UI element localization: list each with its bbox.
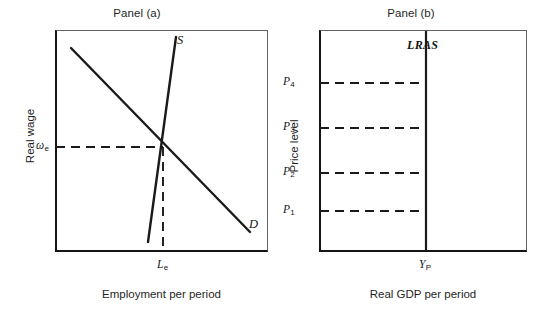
equilibrium-wage-subscript: e: [44, 144, 48, 153]
price-level-tick-p3: P3: [283, 120, 294, 132]
equilibrium-wage-tick-label: ωe: [36, 139, 49, 151]
potential-output-subscript: P: [426, 263, 431, 272]
price-level-symbol-p4: P: [283, 75, 290, 87]
panel-b-x-axis-label: Real GDP per period: [319, 288, 527, 300]
price-level-subscript-p1: 1: [290, 208, 294, 217]
price-level-symbol-p1: P: [283, 203, 290, 215]
equilibrium-employment-tick-label: Le: [157, 258, 168, 270]
price-level-subscript-p4: 4: [290, 80, 294, 89]
panel-b-title: Panel (b): [274, 7, 548, 19]
price-level-symbol-p3: P: [283, 120, 290, 132]
price-level-tick-p2: P2: [283, 165, 294, 177]
panel-a-y-axis-label: Real wage: [24, 106, 36, 166]
labor-supply-curve-label: S: [177, 33, 183, 48]
potential-output-tick-label: YP: [419, 258, 431, 270]
price-level-tick-p1: P1: [283, 203, 294, 215]
price-level-tick-p4: P4: [283, 75, 294, 87]
panel-a-title: Panel (a): [0, 7, 274, 19]
panel-b-plot-frame: [319, 30, 527, 252]
lras-curve-label: LRAS: [407, 38, 438, 53]
panel-b: Panel (b) Price level Real GDP per perio…: [274, 0, 548, 312]
panel-a-x-axis-label: Employment per period: [55, 288, 268, 300]
price-level-subscript-p2: 2: [290, 170, 294, 179]
equilibrium-employment-symbol: L: [157, 258, 163, 270]
price-level-subscript-p3: 3: [290, 125, 294, 134]
potential-output-symbol: Y: [419, 258, 425, 270]
economics-figure: Panel (a) Real wage Employment per perio…: [0, 0, 548, 312]
labor-demand-curve-label: D: [249, 217, 258, 232]
equilibrium-employment-subscript: e: [164, 263, 168, 272]
panel-a-plot-frame: [55, 30, 268, 252]
price-level-symbol-p2: P: [283, 165, 290, 177]
equilibrium-wage-symbol: ω: [36, 139, 44, 151]
panel-a: Panel (a) Real wage Employment per perio…: [0, 0, 274, 312]
